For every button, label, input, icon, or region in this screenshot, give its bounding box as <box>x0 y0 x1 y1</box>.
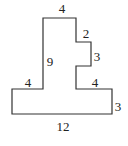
label-base-height: 3 <box>115 99 122 114</box>
composite-shape-outline <box>12 18 112 114</box>
label-base-width: 12 <box>57 119 70 134</box>
label-tall-height: 9 <box>47 54 54 69</box>
label-top-width: 4 <box>59 1 66 16</box>
composite-shape-diagram: 4 2 3 9 4 4 3 12 <box>0 0 128 146</box>
label-left-ledge: 4 <box>25 75 32 90</box>
label-step-height: 3 <box>94 49 101 64</box>
label-right-ledge: 4 <box>92 75 99 90</box>
label-step-width: 2 <box>83 26 90 41</box>
